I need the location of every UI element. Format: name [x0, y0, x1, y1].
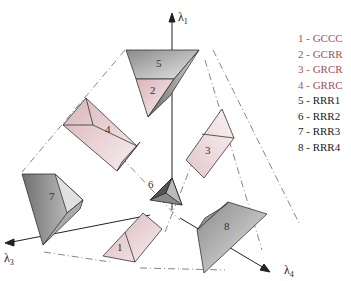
label-6: 6 — [148, 178, 154, 190]
label-4: 4 — [105, 123, 111, 135]
legend-item-3: 3 - GRCR — [298, 62, 343, 78]
legend-item-1: 1 - GCCC — [298, 31, 343, 47]
shape-4 — [63, 98, 140, 171]
shape-6 — [150, 178, 182, 205]
shape-8 — [197, 202, 267, 273]
label-7: 7 — [49, 190, 55, 202]
label-1: 1 — [117, 241, 123, 253]
shape-7 — [22, 174, 83, 245]
shape-5 — [126, 50, 199, 117]
legend-item-8: 8 - RRR4 — [298, 140, 343, 156]
axis-label-lambda4: λ4 — [284, 263, 294, 279]
label-5: 5 — [156, 57, 162, 69]
legend-item-6: 6 - RRR2 — [298, 109, 343, 125]
axis-label-lambda3: λ3 — [4, 251, 14, 267]
legend-item-5: 5 - RRR1 — [298, 93, 343, 109]
axis-label-lambda1: λ1 — [178, 10, 188, 26]
label-3: 3 — [205, 144, 211, 156]
tetrahedron-diagram: 5 2 4 3 6 7 1 8 λ1 λ3 λ4 1 - GC — [0, 0, 351, 281]
legend-item-4: 4 - GRRC — [298, 78, 343, 94]
shape-1 — [103, 213, 162, 262]
label-8: 8 — [224, 220, 230, 232]
legend: 1 - GCCC 2 - GCRR 3 - GRCR 4 - GRRC 5 - … — [298, 31, 343, 155]
legend-item-7: 7 - RRR3 — [298, 124, 343, 140]
label-2: 2 — [150, 84, 156, 96]
legend-item-2: 2 - GCRR — [298, 47, 343, 63]
